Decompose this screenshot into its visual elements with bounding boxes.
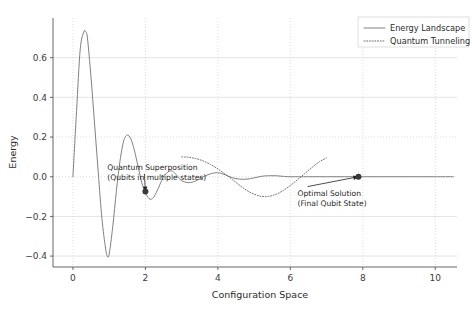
y-axis-tick-labels: −0.4−0.20.00.20.40.6 [25,53,47,261]
x-axis-tick-labels: 0246810 [70,273,441,283]
y-tick-label-5: 0.6 [33,53,48,63]
x-tick-label-3: 6 [287,273,293,283]
x-axis-title: Configuration Space [212,289,309,300]
annotation-quantum-superposition: Quantum Superposition(Qubits in multiple… [107,163,206,192]
y-tick-label-4: 0.4 [33,93,48,103]
x-tick-label-4: 8 [360,273,366,283]
marker-superposition-marker [142,189,148,195]
chart-figure: 0246810 −0.4−0.20.00.20.40.6 Quantum Sup… [0,0,472,309]
chart-legend[interactable]: Energy LandscapeQuantum Tunneling [358,17,470,47]
annotation-line-0: Quantum Superposition [107,163,197,172]
legend-label-1: Quantum Tunneling [390,36,470,46]
energy-landscape-chart: 0246810 −0.4−0.20.00.20.40.6 Quantum Sup… [0,0,472,309]
series-line-energy-landscape [73,30,453,257]
annotation-line-1: (Qubits in multiple states) [107,173,206,182]
gridlines [53,18,457,267]
x-tick-label-0: 0 [70,273,76,283]
annotation-line-1: (Final Qubit State) [298,199,367,208]
annotation-line-0: Optimal Solution [298,189,362,198]
x-tick-label-2: 4 [215,273,221,283]
y-tick-label-1: −0.2 [25,212,47,222]
annotation-optimal-solution: Optimal Solution(Final Qubit State) [298,175,367,207]
data-series-group [73,30,453,257]
axis-spines [53,18,457,267]
annotation-arrow-line [308,177,359,187]
annotations-group: Quantum Superposition(Qubits in multiple… [107,163,366,208]
x-tick-label-1: 2 [143,273,149,283]
legend-label-0: Energy Landscape [390,23,465,33]
marker-optimal-marker [355,174,361,180]
y-tick-label-0: −0.4 [25,251,47,261]
x-tick-label-5: 10 [430,273,442,283]
y-tick-label-2: 0.0 [33,172,48,182]
y-tick-label-3: 0.2 [33,132,47,142]
y-axis-title: Energy [7,135,18,169]
